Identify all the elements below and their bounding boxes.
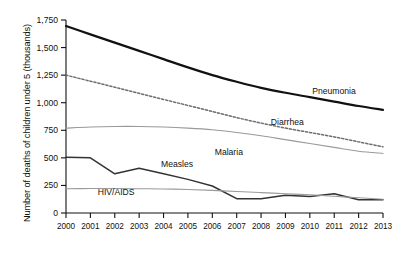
chart-container: Number of deaths of children under 5 (th…: [0, 0, 410, 253]
x-tick-label: 2004: [154, 222, 173, 231]
series-label-group: PneumoniaDiarrheaMalariaMeaslesHIV/AIDS: [98, 86, 356, 197]
x-axis-tick-group: 2000200120022003200420052006200720082009…: [57, 213, 393, 231]
y-tick-label: 1,250: [36, 70, 58, 80]
series-line-pneumonia: [66, 26, 383, 110]
x-tick-label: 2009: [276, 222, 295, 231]
y-tick-label: 1,750: [36, 15, 58, 25]
x-tick-label: 2003: [130, 222, 149, 231]
series-label-diarrhea: Diarrhea: [271, 117, 304, 127]
x-tick-label: 2006: [203, 222, 222, 231]
series-label-hiv-aids: HIV/AIDS: [98, 187, 135, 197]
series-path-group: [66, 26, 383, 200]
y-tick-label: 500: [44, 153, 59, 163]
line-chart-plot: 02505007501,0001,2501,5001,750 200020012…: [0, 0, 410, 253]
y-tick-label: 1,000: [36, 98, 58, 108]
x-tick-label: 2010: [301, 222, 320, 231]
series-label-malaria: Malaria: [215, 147, 243, 157]
y-axis-tick-group: 02505007501,0001,2501,5001,750: [36, 15, 66, 218]
series-label-measles: Measles: [161, 159, 193, 169]
y-tick-label: 0: [53, 208, 58, 218]
x-tick-label: 2001: [81, 222, 100, 231]
x-tick-label: 2013: [374, 222, 393, 231]
x-tick-label: 2002: [106, 222, 125, 231]
y-tick-label: 750: [44, 125, 59, 135]
y-tick-label: 250: [44, 180, 59, 190]
x-tick-label: 2005: [179, 222, 198, 231]
x-tick-label: 2007: [228, 222, 247, 231]
x-tick-label: 2008: [252, 222, 271, 231]
x-tick-label: 2011: [325, 222, 343, 231]
y-tick-label: 1,500: [36, 43, 58, 53]
x-tick-label: 2012: [350, 222, 369, 231]
series-label-pneumonia: Pneumonia: [312, 86, 356, 96]
x-tick-label: 2000: [57, 222, 76, 231]
